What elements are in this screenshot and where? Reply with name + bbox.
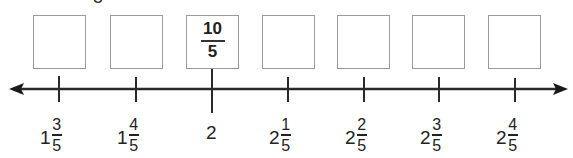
fraction-part: 4 5 (129, 117, 139, 153)
whole-part: 2 (496, 128, 507, 148)
tick-label-2: 1 4 5 (117, 117, 139, 153)
fraction-bar (129, 134, 139, 136)
tick-label-5: 2 2 5 (345, 117, 367, 153)
fraction-part: 1 5 (281, 117, 291, 153)
numerator: 3 (432, 117, 441, 132)
whole-part: 1 (117, 128, 128, 148)
denominator: 5 (52, 138, 61, 153)
fraction-bar (432, 134, 442, 136)
fraction-part: 4 5 (508, 117, 518, 153)
whole-part: 2 (420, 128, 431, 148)
numerator: 3 (52, 117, 61, 132)
tick-label-1: 1 3 5 (40, 117, 62, 153)
whole-part: 1 (40, 128, 51, 148)
fraction-part: 2 5 (357, 117, 367, 153)
numerator: 2 (357, 117, 366, 132)
denominator: 5 (281, 138, 290, 153)
tick-label-7: 2 4 5 (496, 117, 518, 153)
whole-part: 2 (345, 128, 356, 148)
tick-label-4: 2 1 5 (269, 117, 291, 153)
whole-part: 2 (269, 128, 280, 148)
denominator: 5 (432, 138, 441, 153)
numerator: 4 (129, 117, 138, 132)
fraction-bar (281, 134, 291, 136)
denominator: 5 (129, 138, 138, 153)
whole-part: 2 (206, 123, 217, 143)
fraction-bar (52, 134, 62, 136)
denominator: 5 (357, 138, 366, 153)
numerator: 4 (508, 117, 517, 132)
tick-label-3: 2 (206, 117, 217, 143)
fraction-bar (357, 134, 367, 136)
fraction-part: 3 5 (52, 117, 62, 153)
fraction-bar (508, 134, 518, 136)
tick-label-6: 2 3 5 (420, 117, 442, 153)
denominator: 5 (508, 138, 517, 153)
fraction-part: 3 5 (432, 117, 442, 153)
numerator: 1 (281, 117, 290, 132)
